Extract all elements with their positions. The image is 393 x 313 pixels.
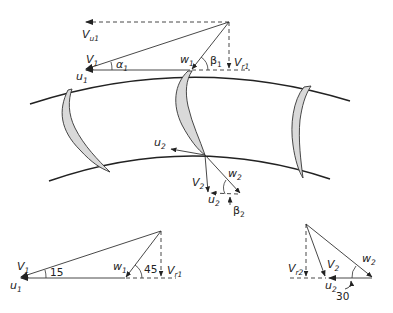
v1-arrow [86,22,229,69]
alpha1-angle-arc [111,62,112,70]
num-label-vr1: Vr1 [167,264,182,279]
blade-middle [176,71,205,155]
blade-right [292,86,311,178]
num-label-angle-30: 30 [336,290,349,302]
label-v2: V2 [192,176,205,191]
velocity-triangle-diagram: Vu1 V1 u1 α1 w1 β1 Vr1 u2 V2 w2 u2 β2 V1… [0,0,393,313]
label-vu1: Vu1 [82,28,99,43]
label-beta1: β1 [210,54,222,69]
v2-arrow [205,155,208,192]
num-label-angle-15: 15 [50,266,63,278]
num-label-v2: V2 [327,258,340,273]
num-angle45-arc [135,265,142,278]
label-w2: w2 [228,167,242,182]
label-u1: u1 [76,70,88,85]
num-angle30-pointer [345,281,351,289]
label-u2-exit: u2 [154,136,166,151]
label-u2b: u2 [208,193,220,208]
beta1-angle-arc [201,57,208,70]
num-label-angle-45: 45 [144,263,157,275]
num-label-v1: V1 [17,260,29,275]
num-label-u1: u1 [10,279,22,294]
num-label-vr2: Vr2 [288,262,304,277]
num-angle30-arc [352,266,356,278]
blade-left [62,89,110,172]
num-label-w2: w2 [362,252,376,267]
num-label-w1: w1 [113,260,127,275]
num-angle15-arc [45,270,46,278]
label-vr1: Vr1 [234,56,249,71]
label-w1: w1 [180,53,194,68]
label-alpha1: α1 [116,58,128,73]
label-v1: V1 [86,53,98,68]
beta2-angle-arc [224,180,226,194]
label-beta2: β2 [233,204,245,219]
